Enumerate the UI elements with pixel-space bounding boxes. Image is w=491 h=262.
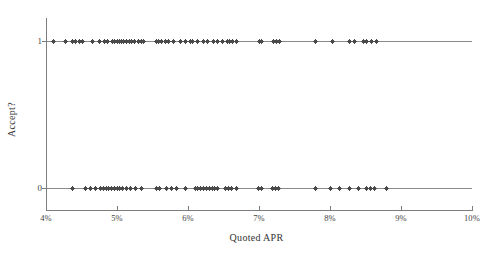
x-axis-tick-label: 10%	[464, 213, 480, 223]
y-axis-title: Accept?	[6, 75, 17, 165]
data-point	[385, 187, 388, 190]
data-point	[170, 187, 173, 190]
x-axis-title-text: Quoted APR	[230, 232, 284, 243]
data-point	[216, 187, 219, 190]
data-point	[167, 40, 170, 43]
data-point	[84, 187, 87, 190]
y-axis-line	[46, 18, 47, 211]
data-point	[260, 40, 263, 43]
data-point	[314, 187, 317, 190]
data-point	[353, 40, 356, 43]
data-point	[71, 187, 74, 190]
data-point	[348, 40, 351, 43]
y-axis-tick-label: 1	[38, 36, 43, 46]
x-axis-tick	[259, 206, 260, 211]
x-axis-tick	[472, 206, 473, 211]
data-point	[52, 40, 55, 43]
x-axis-tick-label: 6%	[182, 213, 194, 223]
x-axis-tick	[188, 206, 189, 211]
y-axis-tick	[42, 188, 47, 189]
data-point	[129, 187, 132, 190]
data-point	[134, 187, 137, 190]
data-point	[373, 187, 376, 190]
data-point	[140, 187, 143, 190]
data-point	[81, 40, 84, 43]
data-point	[165, 187, 168, 190]
x-axis-tick-label: 9%	[395, 213, 407, 223]
x-axis-title: Quoted APR	[0, 232, 491, 243]
x-axis-tick-label: 5%	[111, 213, 123, 223]
x-axis-tick	[330, 206, 331, 211]
data-point	[158, 187, 161, 190]
data-point	[94, 187, 97, 190]
y-axis-tick-label: 0	[38, 183, 43, 193]
data-point	[91, 40, 94, 43]
data-point	[230, 187, 233, 190]
data-point	[191, 40, 194, 43]
data-point	[235, 40, 238, 43]
data-point	[142, 40, 145, 43]
x-axis-tick	[46, 206, 47, 211]
x-axis-tick-label: 4%	[40, 213, 52, 223]
data-point	[89, 187, 92, 190]
data-point	[196, 40, 199, 43]
data-point	[314, 40, 317, 43]
scatter-chart-figure: 4%5%6%7%8%9%10% 01 Quoted APR Accept?	[0, 0, 491, 262]
data-point	[235, 187, 238, 190]
x-axis-tick-label: 7%	[253, 213, 265, 223]
data-point	[278, 40, 281, 43]
data-point	[331, 40, 334, 43]
data-point	[64, 40, 67, 43]
x-axis-tick	[401, 206, 402, 211]
data-point	[179, 40, 182, 43]
y-axis-tick	[42, 41, 47, 42]
data-point	[260, 187, 263, 190]
data-point	[370, 40, 373, 43]
data-point	[357, 187, 360, 190]
data-point	[184, 187, 187, 190]
data-point	[172, 40, 175, 43]
x-axis-tick	[117, 206, 118, 211]
data-point	[375, 40, 378, 43]
data-point	[277, 187, 280, 190]
data-point	[216, 40, 219, 43]
data-point	[338, 187, 341, 190]
x-axis-tick-label: 8%	[324, 213, 336, 223]
data-point	[221, 40, 224, 43]
data-point	[206, 40, 209, 43]
data-point	[329, 187, 332, 190]
data-point	[348, 187, 351, 190]
data-point	[175, 187, 178, 190]
